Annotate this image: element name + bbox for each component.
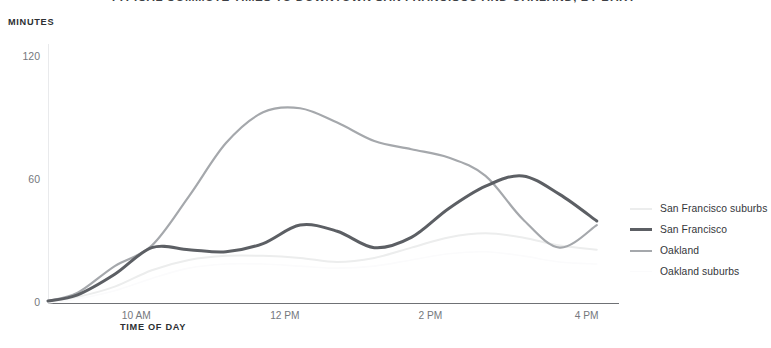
legend-item-label: Oakland — [660, 245, 699, 256]
legend-item-label: San Francisco — [660, 224, 727, 235]
legend-item[interactable]: Oakland suburbs — [630, 261, 771, 282]
series-line — [48, 176, 597, 301]
chart-canvas: TYPICAL COMMUTE TIMES TO DOWNTOWN SAN FR… — [0, 0, 771, 348]
legend-item-label: San Francisco suburbs — [660, 203, 767, 214]
legend-item[interactable]: San Francisco — [630, 219, 771, 240]
legend-item[interactable]: San Francisco suburbs — [630, 198, 771, 219]
legend-item[interactable]: Oakland — [630, 240, 771, 261]
legend-swatch-icon — [630, 228, 652, 231]
legend-swatch-icon — [630, 208, 652, 210]
legend-item-label: Oakland suburbs — [660, 266, 739, 277]
chart-legend: San Francisco suburbsSan FranciscoOaklan… — [630, 198, 771, 282]
series-lines — [0, 0, 771, 348]
series-line — [48, 107, 597, 301]
legend-swatch-icon — [630, 271, 652, 272]
legend-swatch-icon — [630, 250, 652, 252]
